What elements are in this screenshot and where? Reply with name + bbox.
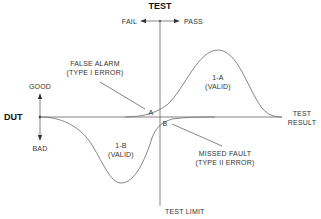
good-label: GOOD [29, 83, 51, 90]
valid-pass-curve [125, 50, 282, 117]
false-alarm-label-line2: (TYPE I ERROR) [67, 69, 124, 77]
test-result-label-line2: RESULT [288, 119, 317, 126]
valid-fail-label-line1: 1-B [115, 142, 127, 149]
test-limit-label: TEST LIMIT [165, 208, 205, 215]
false-alarm-label-line1: FALSE ALARM [70, 60, 120, 67]
test-result-label-line1: TEST [293, 110, 312, 117]
dut-label: DUT [4, 112, 23, 122]
valid-pass-label-line1: 1-A [212, 74, 224, 81]
point-b-label: B [163, 120, 168, 127]
test-error-diagram: TEST FAIL PASS TEST LIMIT TEST RESULT DU… [0, 0, 321, 219]
diagram-title: TEST [148, 1, 172, 11]
false-alarm-leader [100, 82, 145, 109]
valid-fail-label-line2: (VALID) [108, 151, 134, 159]
pass-label: PASS [184, 18, 203, 25]
valid-fail-curve [40, 117, 215, 183]
point-a-label: A [149, 109, 154, 116]
bad-label: BAD [33, 145, 48, 152]
missed-fault-label-line1: MISSED FAULT [199, 150, 252, 157]
valid-pass-label-line2: (VALID) [205, 83, 231, 91]
fail-label: FAIL [122, 18, 137, 25]
missed-fault-label-line2: (TYPE II ERROR) [195, 159, 254, 167]
missed-fault-leader [172, 124, 222, 146]
